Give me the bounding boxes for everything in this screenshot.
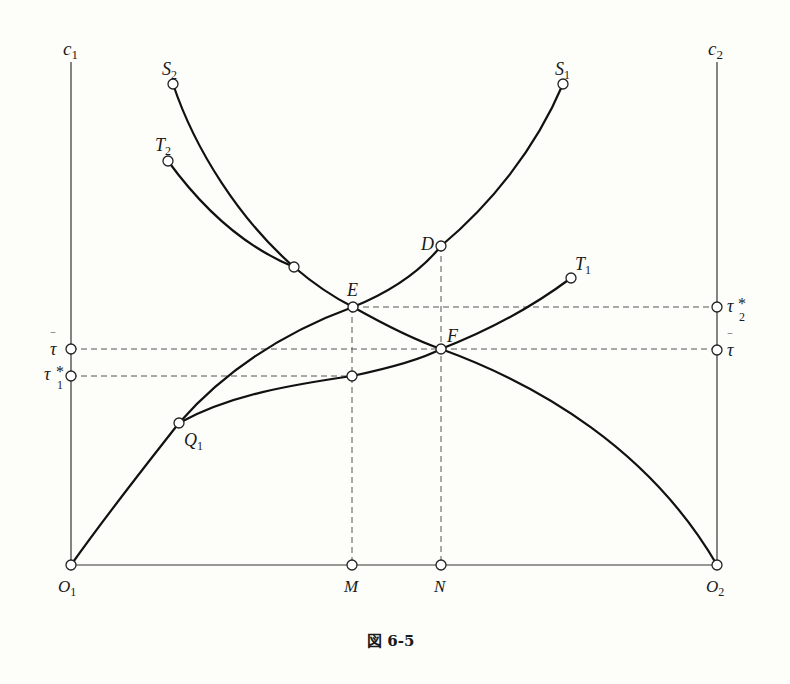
point-Q1 [174, 418, 184, 428]
label-tau2-star-sub: 2 [739, 310, 745, 324]
tick-left-tau1-star [66, 371, 76, 381]
tick-right-tau-bar [712, 345, 722, 355]
point-D [436, 241, 446, 251]
curve-S1 [71, 84, 563, 565]
point-junction [289, 262, 299, 272]
curve-T1 [179, 278, 571, 423]
label-O2: O2 [706, 577, 724, 599]
point-O2 [712, 560, 722, 570]
point-M [347, 560, 357, 570]
label-N: N [433, 577, 447, 596]
label-S2: S2 [162, 59, 177, 82]
point-T1 [566, 273, 576, 283]
label-tau1-star: τ [44, 364, 51, 384]
point-N [436, 560, 446, 570]
figure-caption: 図 6-5 [367, 632, 414, 650]
label-T2: T2 [155, 135, 171, 158]
label-tau1-star-sub: 1 [57, 378, 63, 392]
label-Q1: Q1 [184, 430, 203, 453]
label-E: E [346, 280, 358, 300]
label-M: M [343, 577, 359, 596]
point-on-M-T1 [347, 371, 357, 381]
curve-T2 [168, 161, 294, 267]
point-F [436, 344, 446, 354]
tick-left-tau-bar [66, 344, 76, 354]
tick-right-tau2-star [712, 302, 722, 312]
point-O1 [66, 560, 76, 570]
edgeworth-box-diagram: c1 c2 S2 S1 T2 T1 D E F Q1 O1 O2 M N τ ‾… [0, 0, 790, 684]
point-E [348, 302, 358, 312]
label-F: F [446, 326, 459, 346]
label-D: D [420, 234, 434, 254]
label-S1: S1 [555, 59, 570, 82]
label-c2: c2 [708, 38, 723, 62]
curve-S2 [173, 84, 717, 565]
label-tau2-star: τ [727, 296, 734, 316]
label-O1: O1 [58, 577, 76, 599]
label-T1: T1 [575, 254, 591, 277]
label-c1: c1 [63, 38, 78, 62]
